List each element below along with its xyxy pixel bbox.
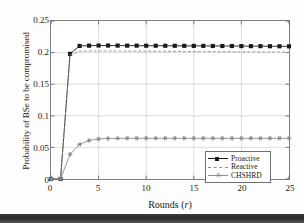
x-axis-label-symbol: r [185,199,189,210]
x-tick-label: 15 [177,183,211,193]
legend-swatch-icon: ✳ [208,172,228,180]
legend-item: ✳CHSHRD [208,172,267,180]
data-point-marker [106,43,110,47]
data-point-marker [97,43,101,47]
data-point-marker [163,136,168,140]
data-point-marker [192,136,197,140]
x-tick-label: 20 [225,183,259,193]
data-point-marker [144,136,149,140]
data-point-marker [220,44,224,48]
x-axis-label-text: Rounds [148,199,179,210]
data-point-marker [211,136,216,140]
data-point-marker [277,136,282,140]
data-point-marker [134,136,139,140]
figure: Probability of BSe to be compromised Rou… [0,0,304,223]
x-tick-label: 0 [33,183,67,193]
data-point-marker [154,44,158,48]
y-tick-label: 0.2 [3,47,49,57]
data-point-marker [173,44,177,48]
data-point-marker [268,136,273,140]
y-tick-label: 0.15 [3,79,49,89]
scan-artifact-strip [0,214,304,223]
data-point-marker [115,136,120,140]
data-point-marker [87,44,91,48]
y-tick-label: 0.05 [3,143,49,153]
data-point-marker [239,44,243,48]
data-point-marker [106,137,111,141]
legend-item-label: Reactive [231,163,258,171]
data-point-marker [153,136,158,140]
data-point-marker [201,44,205,48]
x-axis-label: Rounds (r) [50,199,290,210]
data-point-marker [249,136,254,140]
y-tick-label: 0.1 [3,111,49,121]
x-tick-label: 25 [273,183,304,193]
y-axis-label: Probability of BSe to be compromised [21,13,31,189]
data-point-marker [249,44,253,48]
data-point-marker [277,44,281,48]
data-point-marker [125,44,129,48]
data-point-marker [268,44,272,48]
data-point-marker [87,138,92,142]
data-point-marker [201,136,206,140]
legend-marker-icon [215,157,219,161]
data-point-marker [172,136,177,140]
data-point-marker [211,44,215,48]
data-point-marker [163,44,167,48]
legend-marker-icon: ✳ [215,173,220,178]
data-point-marker [182,136,187,140]
legend-line-sample [208,167,228,168]
x-tick-label: 10 [129,183,163,193]
legend-item: Reactive [208,163,267,171]
data-point-marker [230,44,234,48]
data-point-marker [230,136,235,140]
y-tick-label: 0.25 [3,15,49,25]
legend-swatch-icon [208,163,228,171]
data-point-marker [287,136,292,140]
data-point-marker [258,136,263,140]
data-point-marker [220,136,225,140]
data-point-marker [239,136,244,140]
data-point-marker [125,136,130,140]
data-point-marker [116,44,120,48]
data-point-marker [77,44,81,48]
legend-item-label: CHSHRD [231,172,262,180]
data-point-marker [96,137,101,141]
data-point-marker [192,44,196,48]
data-point-marker [258,44,262,48]
data-point-marker [287,44,291,48]
data-point-marker [135,44,139,48]
data-point-marker [182,44,186,48]
x-tick-label: 5 [81,183,115,193]
legend: ProactiveReactive✳CHSHRD [205,151,271,183]
data-point-marker [144,44,148,48]
legend-swatch-icon [208,155,228,163]
